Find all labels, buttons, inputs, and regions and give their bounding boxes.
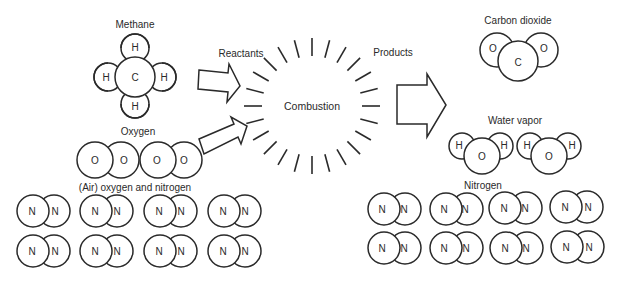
svg-text:N: N <box>378 243 385 254</box>
burst-ray <box>246 88 263 93</box>
svg-text:N: N <box>28 206 35 217</box>
symbol-o: O <box>153 155 161 166</box>
burst-ray <box>360 119 377 124</box>
nitrogen-molecule: NN <box>551 231 604 263</box>
svg-text:N: N <box>400 243 407 254</box>
svg-text:N: N <box>155 206 162 217</box>
nitrogen-molecule: NN <box>17 195 70 227</box>
symbol-h: H <box>102 72 109 83</box>
svg-text:N: N <box>241 246 248 257</box>
burst-ray <box>278 47 287 63</box>
nitrogen-molecule: NN <box>490 232 543 264</box>
symbol-o: O <box>540 43 548 54</box>
svg-text:N: N <box>584 202 591 213</box>
water-vapor-group: Water vapor H H O H H O <box>449 115 581 174</box>
svg-text:N: N <box>51 206 58 217</box>
svg-text:H: H <box>500 140 507 151</box>
burst-ray <box>337 47 346 63</box>
svg-text:N: N <box>501 243 508 254</box>
nitrogen-molecule: NN <box>80 235 133 267</box>
burst-ray <box>264 58 277 71</box>
oxygen-molecule: O O <box>77 142 139 178</box>
water-molecule: H H O <box>449 133 513 174</box>
svg-text:N: N <box>400 204 407 215</box>
svg-text:N: N <box>500 203 507 214</box>
svg-text:H: H <box>568 140 575 151</box>
nitrogen-molecule: NN <box>430 232 483 264</box>
air-nitrogen-group: (Air) oxygen and nitrogen NN NN NN NN NN… <box>17 182 261 267</box>
burst-ray <box>337 149 346 165</box>
combustion-burst: Combustion <box>244 38 380 174</box>
methane-label: Methane <box>116 19 155 30</box>
svg-text:N: N <box>113 246 120 257</box>
burst-ray <box>246 119 263 124</box>
combustion-label: Combustion <box>284 100 340 112</box>
nitrogen-molecule: NN <box>208 195 261 227</box>
svg-text:H: H <box>523 140 530 151</box>
symbol-o: O <box>120 155 128 166</box>
nitrogen-molecule: NN <box>368 232 421 264</box>
svg-text:N: N <box>91 206 98 217</box>
burst-ray <box>360 88 377 93</box>
svg-text:N: N <box>440 204 447 215</box>
svg-text:O: O <box>545 151 553 162</box>
svg-text:N: N <box>562 242 569 253</box>
svg-text:N: N <box>585 242 592 253</box>
carbon-dioxide-group: Carbon dioxide O O C <box>480 15 558 81</box>
burst-ray <box>355 72 371 81</box>
burst-ray <box>347 141 360 154</box>
svg-text:N: N <box>177 206 184 217</box>
svg-text:N: N <box>51 246 58 257</box>
oxygen-molecule: O O <box>140 142 202 178</box>
reactants-label: Reactants <box>218 48 263 59</box>
oxygen-label: Oxygen <box>121 126 155 137</box>
products-label: Products <box>373 47 412 58</box>
burst-ray <box>264 141 277 154</box>
symbol-h: H <box>131 101 138 112</box>
air-label: (Air) oxygen and nitrogen <box>79 182 191 193</box>
svg-text:H: H <box>455 140 462 151</box>
nitrogen-molecule: NN <box>80 195 133 227</box>
svg-text:N: N <box>155 246 162 257</box>
nitrogen-molecule: NN <box>368 193 421 225</box>
nitrogen-molecule: NN <box>144 195 197 227</box>
carbon-dioxide-label: Carbon dioxide <box>484 15 552 26</box>
nitrogen-molecule: NN <box>17 235 70 267</box>
svg-text:N: N <box>462 243 469 254</box>
symbol-h: H <box>160 72 167 83</box>
reactant-arrow-upper-icon <box>198 64 240 102</box>
svg-text:N: N <box>219 246 226 257</box>
burst-ray <box>347 58 360 71</box>
carbon-dioxide-molecule: O O C <box>480 33 558 81</box>
svg-text:N: N <box>521 203 528 214</box>
burst-ray <box>253 72 269 81</box>
burst-ray <box>294 40 299 57</box>
nitrogen-molecule: NN <box>208 235 261 267</box>
svg-text:O: O <box>478 151 486 162</box>
svg-text:N: N <box>440 243 447 254</box>
svg-text:N: N <box>28 246 35 257</box>
oxygen-group: Oxygen O O O O <box>77 126 202 178</box>
burst-ray <box>278 149 287 165</box>
burst-ray <box>253 131 269 140</box>
symbol-c: C <box>131 72 138 83</box>
svg-text:N: N <box>522 243 529 254</box>
symbol-o: O <box>91 155 99 166</box>
svg-text:N: N <box>177 246 184 257</box>
product-nitrogen-group: Nitrogen NN NN NN NN NN NN NN NN <box>368 180 604 264</box>
nitrogen-molecule: NN <box>489 192 542 224</box>
methane-group: Methane H H H H C <box>94 19 176 118</box>
burst-ray <box>325 154 330 171</box>
product-arrow-icon <box>397 74 446 137</box>
svg-text:N: N <box>91 246 98 257</box>
reactant-arrow-lower-icon <box>199 117 247 154</box>
svg-text:N: N <box>219 206 226 217</box>
methane-molecule: H H H H C <box>94 34 176 118</box>
svg-text:N: N <box>561 202 568 213</box>
burst-ray <box>355 131 371 140</box>
water-molecule: H H O <box>517 133 581 174</box>
nitrogen-label: Nitrogen <box>464 180 502 191</box>
symbol-c: C <box>514 57 521 68</box>
symbol-o: O <box>489 43 497 54</box>
burst-ray <box>325 40 330 57</box>
